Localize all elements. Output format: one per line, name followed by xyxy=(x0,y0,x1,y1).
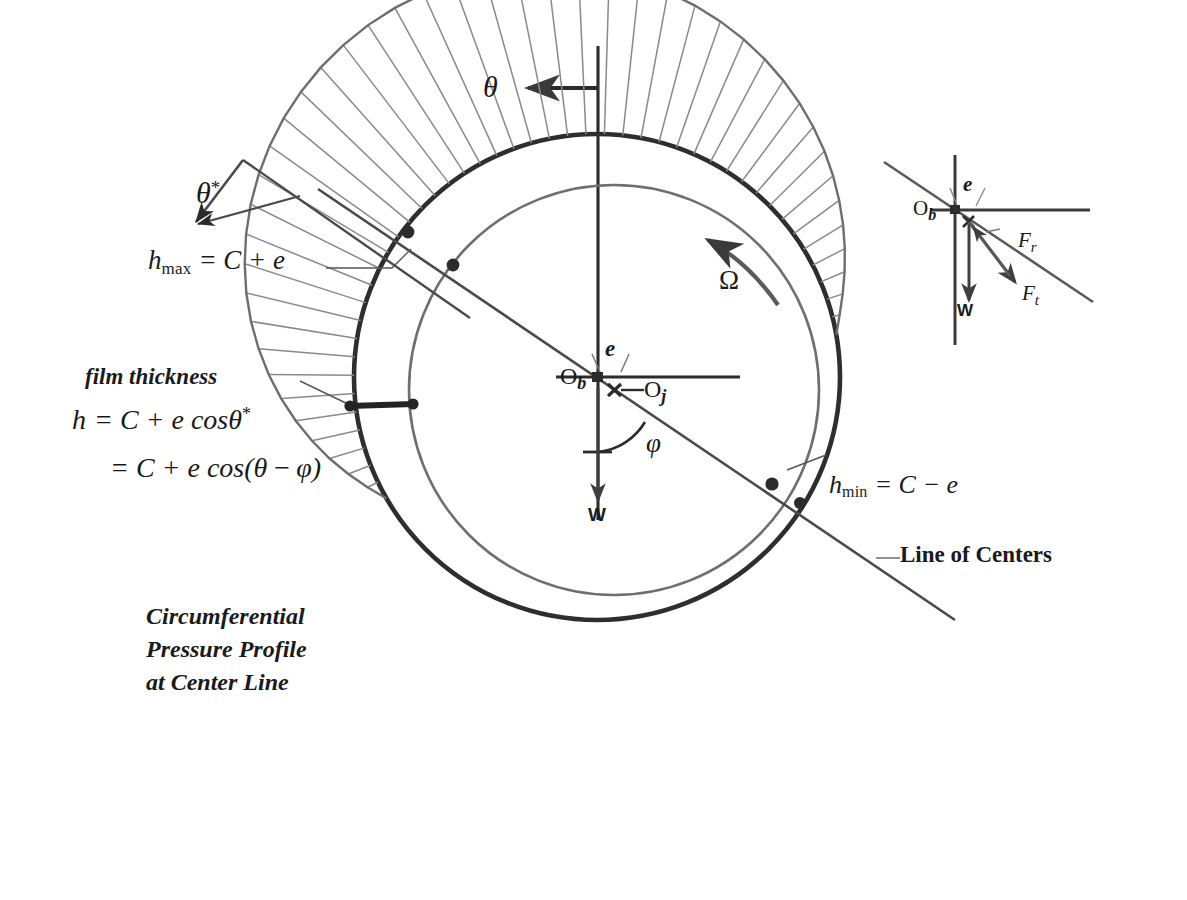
line-of-centers-label: Line of Centers xyxy=(900,542,1052,568)
inset-force-radial-label: Fr xyxy=(1018,228,1037,256)
inset-load-label: W xyxy=(957,301,973,321)
attitude-angle-label: φ xyxy=(646,428,661,459)
center-journal-label: Oj xyxy=(644,376,666,407)
caption-line-3: at Center Line xyxy=(146,666,307,699)
caption-line-2: Pressure Profile xyxy=(146,633,307,666)
theta-star-label: θ* xyxy=(196,176,220,210)
film-thickness-label: film thickness xyxy=(85,364,217,390)
h-max-leader xyxy=(326,249,411,268)
eccentricity-label: e xyxy=(605,336,615,362)
film-thickness-equation-2: = C + e cos(θ−φ) xyxy=(110,452,321,484)
film-thickness-leader xyxy=(300,381,350,405)
pressure-profile-hatching xyxy=(245,0,845,487)
inset-center-bearing-label: Ob xyxy=(913,196,936,224)
center-bearing-label: Ob xyxy=(560,363,586,394)
pressure-profile-envelope xyxy=(245,0,845,499)
theta-label: θ xyxy=(483,70,498,104)
theta-star-ray xyxy=(196,160,470,318)
inset-eccentricity-label: e xyxy=(963,172,972,197)
caption-line-1: Circumferential xyxy=(146,600,307,633)
journal-bearing-diagram xyxy=(0,0,1187,900)
h-max-label: hmax= C + e xyxy=(148,245,285,279)
omega-label: Ω xyxy=(719,265,739,296)
load-label: W xyxy=(588,504,606,526)
film-thickness-equation-1: h= C + e cosθ* xyxy=(72,404,251,436)
inset-force-tangential-label: Ft xyxy=(1022,281,1039,309)
pressure-profile-caption: Circumferential Pressure Profile at Cent… xyxy=(146,600,307,699)
h-min-label: hmin= C − e xyxy=(829,470,958,501)
inset-force-diagram xyxy=(884,155,1093,345)
